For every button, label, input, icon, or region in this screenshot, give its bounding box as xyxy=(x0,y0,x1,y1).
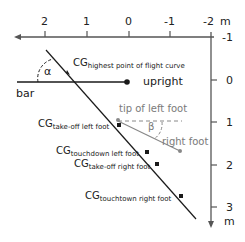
cg-touchdown-left-dot xyxy=(145,150,149,154)
tip-left-foot-label: tip of left foot xyxy=(119,104,187,114)
y-tick-neg1: -1 xyxy=(222,32,233,43)
cg-highest-label: CGhighest point of flight curve xyxy=(73,58,185,70)
y-tick-0: 0 xyxy=(226,75,233,86)
x-tick-2: 2 xyxy=(41,16,48,27)
right-foot-label: right foot xyxy=(162,137,208,147)
x-axis-arrow-icon xyxy=(14,34,21,40)
cg-touchdown-right-label: CGtouchtown right foot xyxy=(85,191,171,203)
upright-dot xyxy=(124,79,130,85)
cg-takeoff-left-label: CGtake-off left foot xyxy=(38,119,109,131)
bar-label: bar xyxy=(16,88,34,99)
y-axis-arrow-icon xyxy=(208,221,214,228)
x-tick-1: 1 xyxy=(83,16,90,27)
y-axis-unit: m xyxy=(224,216,235,227)
y-axis-ticks xyxy=(211,80,217,207)
y-tick-3: 3 xyxy=(226,202,233,213)
beta-label: β xyxy=(148,122,154,132)
x-tick-0: 0 xyxy=(125,16,132,27)
beta-arc xyxy=(154,122,162,139)
tip-left-foot-dot xyxy=(116,118,120,122)
diagram-canvas xyxy=(0,0,245,242)
x-tick-neg2: -2 xyxy=(203,16,214,27)
y-tick-2: 2 xyxy=(226,160,233,171)
cg-takeoff-right-label: CGtake-off right foot xyxy=(74,159,150,171)
cg-touchdown-left-label: CGtouchdown left foot xyxy=(56,146,139,158)
upright-label: upright xyxy=(143,76,183,87)
right-foot-dot xyxy=(178,149,182,153)
cg-touchdown-right-dot xyxy=(179,194,183,198)
x-axis-ticks xyxy=(45,31,170,37)
cg-takeoff-right-dot xyxy=(155,162,159,166)
cg-takeoff-left-dot xyxy=(117,123,121,127)
x-tick-neg1: -1 xyxy=(164,16,175,27)
y-tick-1: 1 xyxy=(226,117,233,128)
x-axis-unit: m xyxy=(220,16,231,27)
alpha-label: α xyxy=(44,66,51,77)
